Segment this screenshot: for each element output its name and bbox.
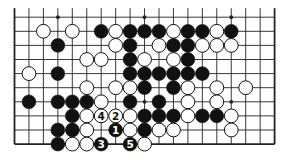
black-stone xyxy=(51,123,65,137)
stone-circle xyxy=(22,95,36,109)
star-point xyxy=(229,100,233,104)
stone-circle xyxy=(123,109,137,123)
black-stone xyxy=(138,81,152,95)
white-stone xyxy=(138,53,152,67)
white-stone xyxy=(210,24,224,38)
black-stone xyxy=(152,95,166,109)
black-stone xyxy=(167,67,181,81)
stone-circle xyxy=(138,137,152,151)
white-stone xyxy=(224,39,238,53)
black-stone xyxy=(51,137,65,151)
black-stone xyxy=(167,109,181,123)
black-stone xyxy=(65,109,79,123)
stone-circle xyxy=(80,95,94,109)
stone-circle xyxy=(181,81,195,95)
stone-circle xyxy=(123,67,137,81)
black-stone xyxy=(94,24,108,38)
black-stone xyxy=(138,109,152,123)
black-stone xyxy=(138,67,152,81)
white-stone xyxy=(65,24,79,38)
stone-circle xyxy=(109,24,123,38)
stone-circle xyxy=(109,39,123,53)
stone-circle xyxy=(195,24,209,38)
white-stone xyxy=(80,81,94,95)
stone-circle xyxy=(167,24,181,38)
stone-circle xyxy=(224,24,238,38)
stone-circle xyxy=(80,53,94,67)
black-stone xyxy=(210,109,224,123)
black-stone xyxy=(51,95,65,109)
stone-circle xyxy=(181,24,195,38)
black-stone-move-5: 5 xyxy=(123,137,137,151)
black-stone-move-3: 3 xyxy=(94,137,108,151)
black-stone xyxy=(181,24,195,38)
stone-circle xyxy=(123,95,137,109)
white-stone xyxy=(239,81,253,95)
move-number-label: 3 xyxy=(98,138,105,150)
black-stone xyxy=(181,67,195,81)
stone-circle xyxy=(51,137,65,151)
stone-circle xyxy=(195,39,209,53)
stone-circle xyxy=(80,137,94,151)
white-stone xyxy=(210,95,224,109)
stone-circle xyxy=(224,109,238,123)
black-stone xyxy=(152,24,166,38)
stone-circle xyxy=(80,123,94,137)
stone-circle xyxy=(138,53,152,67)
white-stone xyxy=(65,137,79,151)
stone-circle xyxy=(210,95,224,109)
stone-circle xyxy=(167,109,181,123)
stone-circle xyxy=(94,24,108,38)
stone-circle xyxy=(181,67,195,81)
white-stone xyxy=(37,24,51,38)
white-stone xyxy=(167,24,181,38)
white-stone xyxy=(181,109,195,123)
stone-circle xyxy=(167,123,181,137)
stone-circle xyxy=(80,109,94,123)
stone-circle xyxy=(123,39,137,53)
white-stone xyxy=(152,39,166,53)
stone-circle xyxy=(152,109,166,123)
stone-circle xyxy=(109,81,123,95)
black-stone xyxy=(138,24,152,38)
stone-circle xyxy=(51,39,65,53)
white-stone xyxy=(181,95,195,109)
black-stone xyxy=(167,81,181,95)
stone-circle xyxy=(195,109,209,123)
stone-circle xyxy=(138,24,152,38)
stone-circle xyxy=(65,95,79,109)
stone-circle xyxy=(123,81,137,95)
stone-circle xyxy=(181,39,195,53)
white-stone-move-4: 4 xyxy=(94,109,108,123)
star-point xyxy=(143,100,147,104)
white-stone xyxy=(152,123,166,137)
stone-circle xyxy=(181,53,195,67)
move-number-label: 4 xyxy=(98,110,105,122)
black-stone xyxy=(65,95,79,109)
black-stone xyxy=(123,67,137,81)
black-stone xyxy=(195,24,209,38)
stone-circle xyxy=(152,95,166,109)
white-stone xyxy=(224,123,238,137)
stone-circle xyxy=(123,123,137,137)
stone-circle xyxy=(167,81,181,95)
stone-circle xyxy=(239,81,253,95)
stone-circle xyxy=(152,24,166,38)
white-stone xyxy=(167,123,181,137)
black-stone xyxy=(65,123,79,137)
white-stone xyxy=(80,53,94,67)
stone-circle xyxy=(51,95,65,109)
stone-circle xyxy=(210,24,224,38)
stone-circle xyxy=(152,39,166,53)
move-number-label: 1 xyxy=(112,124,119,136)
stone-circle xyxy=(167,53,181,67)
white-stone xyxy=(210,81,224,95)
star-point xyxy=(143,15,147,19)
black-stone xyxy=(123,95,137,109)
white-stone xyxy=(138,137,152,151)
black-stone xyxy=(152,67,166,81)
stone-circle xyxy=(94,53,108,67)
stone-circle xyxy=(51,123,65,137)
move-number-label: 2 xyxy=(112,110,119,122)
move-number-label: 5 xyxy=(126,138,133,150)
